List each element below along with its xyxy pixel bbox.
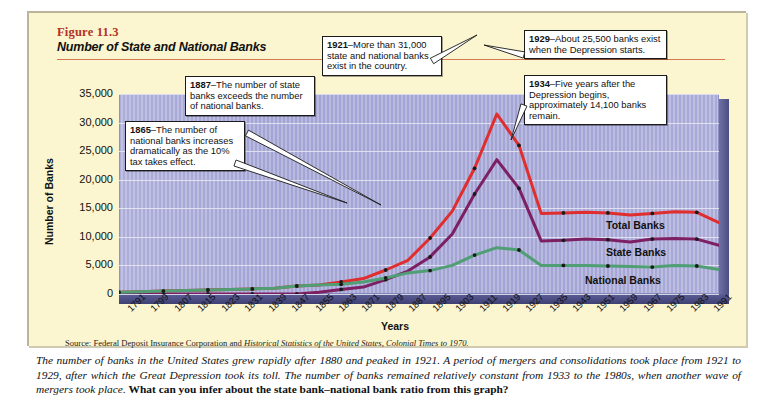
data-point (562, 264, 566, 268)
data-point (428, 269, 432, 273)
callout-1865-year: 1865 (130, 124, 151, 135)
x-axis-ticks: 1791179918071815182318311839184718551863… (119, 306, 739, 336)
data-point (339, 282, 343, 286)
y-tick-label: 25,000 (53, 144, 113, 156)
data-point (473, 253, 477, 257)
data-point (339, 288, 343, 292)
series-label-national: National Banks (585, 274, 661, 286)
data-point (384, 268, 388, 272)
source-text: Source: Federal Deposit Insurance Corpor… (65, 338, 244, 348)
data-point (517, 144, 521, 148)
data-point (650, 265, 654, 269)
series-label-state: State Banks (606, 246, 666, 258)
callout-1887-year: 1887 (190, 79, 211, 90)
source-italic-text: Historical Statistics of the United Stat… (244, 338, 469, 348)
figure-page: Figure 11.3 Number of State and National… (0, 0, 760, 419)
callout-1929-year: 1929 (529, 33, 550, 44)
y-tick-label: 0 (53, 287, 113, 299)
series-label-total: Total Banks (606, 219, 665, 231)
data-point (606, 264, 610, 268)
figure-caption: The number of banks in the United States… (36, 353, 741, 397)
y-tick-label: 30,000 (53, 116, 113, 128)
data-point (295, 292, 299, 294)
callout-1887: 1887–The number of state banks exceeds t… (185, 76, 315, 116)
data-point (695, 210, 699, 214)
caption-question: What can you infer about the state bank–… (129, 383, 509, 395)
callout-1934-year: 1934 (529, 78, 550, 89)
callout-1934: 1934–Five years after the Depression beg… (524, 75, 667, 125)
data-point (650, 237, 654, 241)
data-point (695, 264, 699, 268)
data-point (428, 255, 432, 259)
data-point (517, 248, 521, 252)
figure-panel: Figure 11.3 Number of State and National… (27, 11, 746, 346)
y-tick-label: 10,000 (53, 230, 113, 242)
x-axis-title: Years (381, 320, 409, 332)
plot-side-wall (719, 99, 729, 299)
data-point (606, 238, 610, 242)
figure-number: Figure 11.3 (57, 25, 119, 40)
data-point (473, 192, 477, 196)
y-tick-label: 5,000 (53, 258, 113, 270)
y-tick-label: 20,000 (53, 173, 113, 185)
data-point (473, 166, 477, 170)
y-tick-label: 15,000 (53, 201, 113, 213)
data-point (562, 238, 566, 242)
source-note: Source: Federal Deposit Insurance Corpor… (65, 338, 469, 348)
callout-1865: 1865–The number of national banks increa… (125, 121, 245, 171)
data-point (517, 186, 521, 190)
y-tick-label: 35,000 (53, 87, 113, 99)
callout-pointer (484, 45, 525, 58)
callout-1929: 1929–About 25,500 banks exist when the D… (524, 30, 667, 59)
y-axis-ticks: 05,00010,00015,00020,00025,00030,00035,0… (51, 94, 113, 294)
data-point (650, 212, 654, 216)
data-point (250, 287, 254, 291)
data-point (695, 237, 699, 241)
data-point (428, 236, 432, 240)
callout-1921-year: 1921 (327, 39, 348, 50)
data-point (606, 211, 610, 215)
data-point (295, 284, 299, 288)
data-point (384, 276, 388, 280)
caption-left-bar (27, 350, 30, 416)
data-point (562, 211, 566, 215)
callout-1921: 1921–More than 31,000 state and national… (322, 36, 442, 76)
figure-title: Number of State and National Banks (57, 40, 266, 54)
